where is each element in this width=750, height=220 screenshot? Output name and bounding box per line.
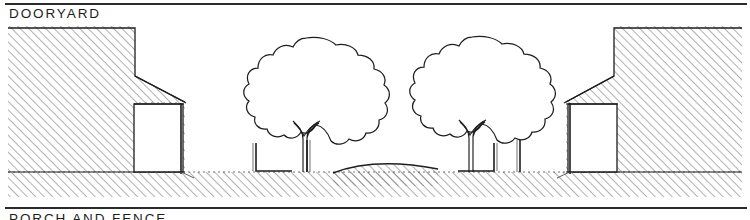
section-drawing-panel — [0, 26, 750, 200]
drawing-sheet: DOORYARD — [0, 0, 750, 220]
curb-right — [458, 143, 497, 171]
curb-left-profile — [256, 143, 292, 171]
curb-right-profile — [458, 143, 494, 171]
tree-left-canopy — [244, 37, 390, 144]
title-rule-bottom — [5, 207, 747, 209]
section-drawing — [0, 26, 750, 200]
page-title: DOORYARD — [9, 6, 101, 21]
street-tree-left — [244, 37, 390, 172]
next-section-title: PORCH AND FENCE — [9, 211, 167, 220]
tree-right-canopy — [410, 36, 556, 143]
curb-left — [253, 143, 292, 171]
title-rule-top — [5, 3, 747, 5]
fence-post-right — [517, 140, 520, 172]
street-tree-right — [410, 36, 556, 172]
